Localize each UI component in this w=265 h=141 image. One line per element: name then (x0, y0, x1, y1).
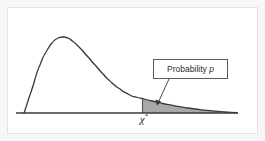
probability-callout-box: Probability p (153, 59, 228, 79)
star-superscript: * (145, 112, 149, 120)
figure-container: Probability p χ* (0, 0, 265, 141)
critical-value-axis-label: χ* (131, 114, 157, 125)
callout-leader-line (158, 79, 169, 103)
probability-symbol: p (209, 64, 214, 74)
probability-callout-label: Probability p (167, 65, 214, 74)
